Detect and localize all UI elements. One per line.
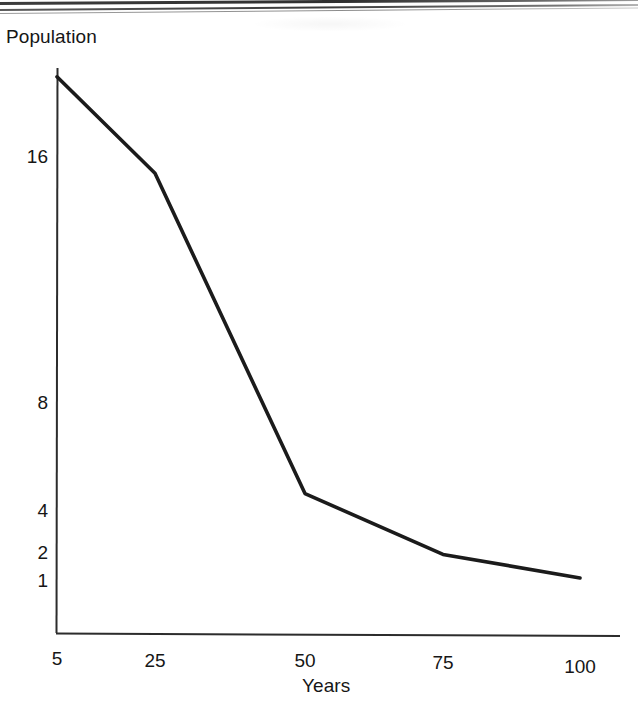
chart-figure: Population 16 8 4 2 1 5 25 50 75 100 Yea… [0, 0, 638, 715]
y-axis-line [57, 68, 58, 633]
y-tick-label-16: 16 [8, 146, 48, 168]
data-line-population [57, 77, 580, 578]
y-tick-label-2: 2 [8, 542, 48, 564]
x-axis-line [56, 634, 620, 637]
y-tick-label-8: 8 [8, 392, 48, 414]
y-tick-label-4: 4 [8, 500, 48, 522]
x-tick-label-75: 75 [420, 652, 466, 674]
x-tick-label-25: 25 [132, 650, 178, 672]
y-tick-label-1: 1 [8, 570, 48, 592]
x-tick-label-5: 5 [34, 648, 80, 670]
plot-area [0, 0, 638, 715]
x-tick-label-50: 50 [282, 650, 328, 672]
x-tick-label-100: 100 [557, 656, 603, 678]
x-axis-title: Years [302, 675, 350, 697]
